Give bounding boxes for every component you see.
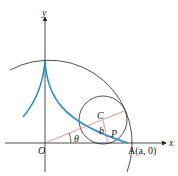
- radius-label: b: [99, 126, 104, 136]
- y-axis-label: y: [42, 8, 46, 18]
- point-p-label: P: [111, 129, 117, 139]
- astroid-diagram: y x O C b P θ A(a, 0): [0, 0, 178, 176]
- angle-arc: [69, 133, 71, 143]
- x-axis-label: x: [169, 138, 173, 148]
- angle-label: θ: [74, 134, 79, 144]
- center-label: C: [97, 111, 104, 121]
- origin-label: O: [38, 146, 45, 156]
- astroid-curve-left: [23, 61, 45, 117]
- point-a-label: A(a, 0): [128, 146, 156, 156]
